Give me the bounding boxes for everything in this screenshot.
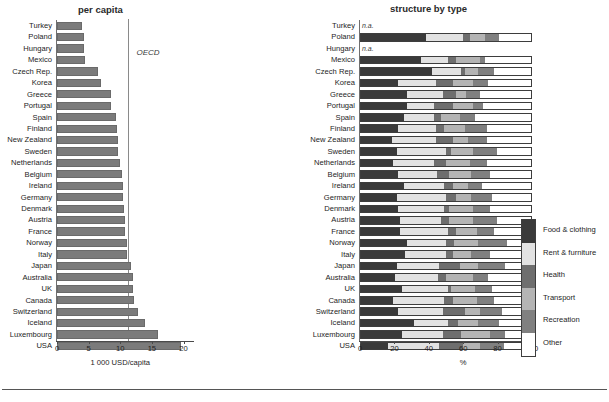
right-x-axis-title: % — [460, 358, 467, 367]
right-category-label: Mexico — [296, 54, 358, 65]
stacked-bar — [360, 285, 532, 294]
right-category-label: Sweden — [296, 146, 358, 157]
left-x-axis — [56, 341, 194, 342]
stacked-bar-segment — [449, 206, 473, 213]
legend-swatch — [522, 310, 535, 333]
legend-label: Health — [543, 264, 596, 287]
left-category-label: Belgium — [0, 169, 55, 180]
left-bar-row — [57, 317, 193, 328]
stacked-bar-segment — [361, 343, 388, 350]
stacked-bar-segment — [361, 331, 402, 338]
right-category-label: Iceland — [296, 317, 358, 328]
stacked-bar-segment — [478, 68, 493, 75]
stacked-bar-segment — [448, 228, 457, 235]
left-category-label: Korea — [0, 77, 55, 88]
stacked-bar-segment — [444, 297, 453, 304]
right-category-label: Greece — [296, 89, 358, 100]
left-bar — [57, 159, 120, 167]
right-category-label: Denmark — [296, 203, 358, 214]
left-category-label: Australia — [0, 272, 55, 283]
right-x-tick-label: 0 — [358, 344, 362, 353]
left-bar — [57, 147, 118, 155]
stacked-bar-segment — [434, 114, 441, 121]
left-bar-row — [57, 77, 193, 88]
legend-label: Rent & furniture — [543, 242, 596, 265]
stacked-bar-segment — [466, 91, 480, 98]
stacked-bar — [360, 319, 532, 328]
stacked-bar-segment — [361, 286, 402, 293]
right-category-row: Belgium — [296, 169, 358, 180]
stacked-bar-segment — [449, 171, 471, 178]
left-category-label: Norway — [0, 237, 55, 248]
right-category-label: New Zealand — [296, 134, 358, 145]
stacked-bar-segment — [478, 263, 505, 270]
stacked-bar-segment — [404, 183, 445, 190]
stacked-bar-segment — [487, 125, 531, 132]
stacked-bar-segment — [456, 194, 471, 201]
stacked-bar-segment — [397, 263, 440, 270]
stacked-bar-segment — [448, 320, 458, 327]
stacked-bar — [360, 330, 532, 339]
right-category-row: Sweden — [296, 146, 358, 157]
left-bar-row — [57, 329, 193, 340]
left-category-label: Hungary — [0, 43, 55, 54]
left-category-label: Ireland — [0, 180, 55, 191]
right-bar-row — [360, 31, 532, 42]
left-category-row: Luxembourg — [0, 329, 55, 340]
left-bar — [57, 90, 111, 98]
left-bar — [57, 216, 125, 224]
left-bar — [57, 170, 122, 178]
stacked-bar — [360, 56, 532, 65]
stacked-bar-segment — [490, 206, 531, 213]
left-bar-row — [57, 100, 193, 111]
left-bar-row — [57, 272, 193, 283]
left-category-row: Poland — [0, 31, 55, 42]
right-bar-row — [360, 214, 532, 225]
right-stacked-bar-series: n.a.n.a. — [360, 20, 532, 352]
stacked-bar-segment — [434, 103, 453, 110]
stacked-bar-segment — [361, 160, 393, 167]
stacked-bar-segment — [402, 331, 443, 338]
right-category-label: Turkey — [296, 20, 358, 31]
stacked-bar-segment — [453, 80, 473, 87]
left-category-label: Spain — [0, 112, 55, 123]
stacked-bar-segment — [446, 240, 455, 247]
stacked-bar-segment — [436, 137, 453, 144]
stacked-bar-segment — [485, 34, 499, 41]
left-bar — [57, 262, 131, 270]
stacked-bar-segment — [487, 160, 531, 167]
left-category-label: Austria — [0, 214, 55, 225]
left-bar — [57, 44, 84, 52]
left-category-row: Mexico — [0, 54, 55, 65]
left-category-label: USA — [0, 340, 55, 351]
right-category-row: Spain — [296, 112, 358, 123]
stacked-bar-segment — [393, 160, 434, 167]
stacked-bar-segment — [449, 217, 473, 224]
left-category-row: USA — [0, 340, 55, 351]
na-label: n.a. — [362, 20, 374, 31]
stacked-bar-segment — [456, 91, 466, 98]
left-category-row: Netherlands — [0, 157, 55, 168]
stacked-bar-segment — [465, 125, 487, 132]
left-bar-row — [57, 66, 193, 77]
left-bar-row — [57, 192, 193, 203]
stacked-bar-segment — [458, 320, 478, 327]
left-bar-row — [57, 260, 193, 271]
stacked-bar-segment — [398, 206, 444, 213]
stacked-bar-segment — [482, 183, 531, 190]
right-category-row: Italy — [296, 249, 358, 260]
right-category-row: Poland — [296, 31, 358, 42]
stacked-bar-segment — [456, 57, 480, 64]
left-category-label: Mexico — [0, 54, 55, 65]
right-panel-title: structure by type — [390, 3, 467, 14]
stacked-bar-segment — [414, 320, 448, 327]
right-category-label: Australia — [296, 272, 358, 283]
right-bar-row — [360, 77, 532, 88]
right-x-tick-label: 20 — [390, 344, 398, 353]
left-category-row: Denmark — [0, 203, 55, 214]
left-category-row: Australia — [0, 272, 55, 283]
stacked-bar — [360, 124, 532, 133]
stacked-bar-segment — [361, 228, 400, 235]
stacked-bar-segment — [436, 125, 445, 132]
right-category-label: Czech Rep. — [296, 66, 358, 77]
